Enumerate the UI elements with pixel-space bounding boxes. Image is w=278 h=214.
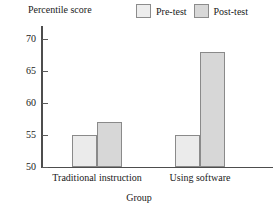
y-tick-mark bbox=[42, 39, 48, 40]
x-axis-title: Group bbox=[126, 192, 152, 204]
y-tick-label: 50 bbox=[26, 162, 36, 172]
y-tick-mark bbox=[42, 71, 48, 72]
y-tick-mark bbox=[42, 167, 48, 168]
legend-label-pre-test: Pre-test bbox=[156, 6, 187, 17]
y-tick-label: 65 bbox=[26, 66, 36, 76]
bar-post-test-group-2 bbox=[200, 52, 225, 167]
bar-pre-test-group-1 bbox=[72, 135, 97, 167]
x-category-label-2: Using software bbox=[170, 172, 231, 184]
legend-swatch-pre-test-icon bbox=[136, 4, 151, 18]
legend-label-post-test: Post-test bbox=[214, 6, 248, 17]
x-category-label-1: Traditional instruction bbox=[52, 172, 141, 184]
bar-post-test-group-1 bbox=[97, 122, 122, 167]
legend-swatch-post-test-icon bbox=[194, 4, 209, 18]
legend-entry-pre-test: Pre-test bbox=[136, 4, 187, 18]
y-axis-line bbox=[41, 26, 43, 168]
y-tick-mark bbox=[42, 103, 48, 104]
bar-chart: Pre-test Post-test Percentile score 5055… bbox=[0, 0, 278, 214]
y-tick-label: 60 bbox=[26, 98, 36, 108]
legend-entry-post-test: Post-test bbox=[194, 4, 248, 18]
plot-area: 5055606570 bbox=[41, 26, 273, 168]
y-tick-mark bbox=[42, 135, 48, 136]
x-axis-line bbox=[41, 167, 273, 169]
bar-pre-test-group-2 bbox=[175, 135, 200, 167]
y-axis-title: Percentile score bbox=[28, 4, 92, 16]
chart-legend: Pre-test Post-test bbox=[136, 4, 248, 18]
y-tick-label: 55 bbox=[26, 130, 36, 140]
y-tick-label: 70 bbox=[26, 34, 36, 44]
